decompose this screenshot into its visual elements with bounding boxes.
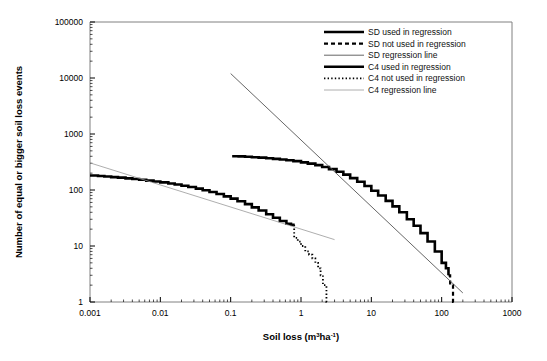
x-tick-label: 10 [367, 308, 377, 318]
x-axis-title: Soil loss (m3ha-1) [263, 331, 339, 342]
legend-label: C4 not used in regression [368, 73, 465, 83]
x-tick-label: 0.1 [225, 308, 237, 318]
y-axis-title: Number of equal or bigger soil loss even… [13, 66, 24, 258]
y-tick-label: 1000 [64, 129, 83, 139]
x-tick-label: 0.01 [152, 308, 169, 318]
y-tick-label: 1 [78, 297, 83, 307]
legend-label: C4 used in regression [368, 62, 451, 72]
x-tick-label: 1000 [503, 308, 522, 318]
chart-figure: 0.0010.010.11101001000 11010010001000010… [0, 0, 547, 361]
legend-label: SD regression line [368, 50, 438, 60]
x-tick-label: 0.001 [79, 308, 101, 318]
y-tick-label: 10000 [59, 73, 83, 83]
legend-label: C4 regression line [368, 85, 437, 95]
y-tick-label: 10 [74, 241, 84, 251]
y-tick-label: 100 [69, 185, 83, 195]
log-log-exceedance-chart: 0.0010.010.11101001000 11010010001000010… [0, 0, 547, 361]
y-tick-label: 100000 [55, 17, 84, 27]
legend-label: SD not used in regression [368, 39, 466, 49]
x-tick-label: 1 [299, 308, 304, 318]
x-tick-label: 100 [435, 308, 449, 318]
legend-label: SD used in regression [368, 27, 452, 37]
